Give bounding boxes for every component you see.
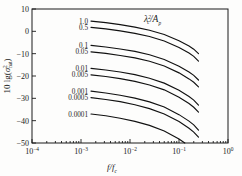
- y-label-suffix: ): [2, 58, 12, 61]
- curve-label-0.05: 0.05: [75, 48, 88, 56]
- annotation-lambda-over-a: λ2c/Ap: [143, 14, 161, 26]
- curve-label-0.0001: 0.0001: [68, 111, 88, 119]
- x-tick-label: 10−1: [172, 146, 186, 156]
- plot-frame: [32, 9, 228, 143]
- curve-0.05: [91, 52, 199, 87]
- curve-label-0.0005: 0.0005: [68, 94, 88, 102]
- y-tick-label: 10: [21, 5, 29, 14]
- curve-0.5: [91, 27, 199, 61]
- curve-label-0.5: 0.5: [79, 24, 88, 32]
- chart-svg: 10−410−310−210−1100 100−10−20−30−40−50 1…: [0, 0, 242, 176]
- y-tick-label: −10: [16, 50, 29, 59]
- y-axis-label: 10 lg(σ2nat): [2, 58, 14, 93]
- y-label-prefix: 10 lg(: [2, 72, 12, 93]
- x-tick-label: 100: [223, 146, 234, 156]
- svg-text:f/fc: f/fc: [107, 162, 118, 174]
- x-label-den-sub: c: [115, 168, 118, 174]
- x-axis-label: f/fc: [107, 162, 118, 174]
- y-tick-label: 0: [25, 27, 29, 36]
- y-axis-ticks: [32, 9, 36, 143]
- curve-0.0001: [91, 114, 185, 143]
- curve-label-0.005: 0.005: [72, 71, 89, 79]
- svg-text:10 lg(σ2nat): 10 lg(σ2nat): [2, 58, 14, 93]
- x-axis-tick-labels: 10−410−310−210−1100: [25, 146, 234, 156]
- y-tick-label: −20: [16, 72, 29, 81]
- chart-figure: 10−410−310−210−1100 100−10−20−30−40−50 1…: [0, 0, 242, 176]
- y-tick-label: −30: [16, 94, 29, 103]
- annot-denom-sub: p: [157, 20, 161, 26]
- x-tick-label: 10−3: [74, 146, 88, 156]
- x-tick-label: 10−2: [123, 146, 137, 156]
- svg-text:λ2c/Ap: λ2c/Ap: [143, 14, 161, 26]
- curve-labels: 1.00.50.10.050.010.0050.0010.00050.0001: [68, 18, 88, 119]
- x-axis-ticks: [32, 139, 228, 143]
- data-curves: [91, 21, 199, 143]
- y-tick-label: −50: [16, 139, 29, 148]
- y-tick-label: −40: [16, 117, 29, 126]
- y-axis-tick-labels: 100−10−20−30−40−50: [16, 5, 29, 148]
